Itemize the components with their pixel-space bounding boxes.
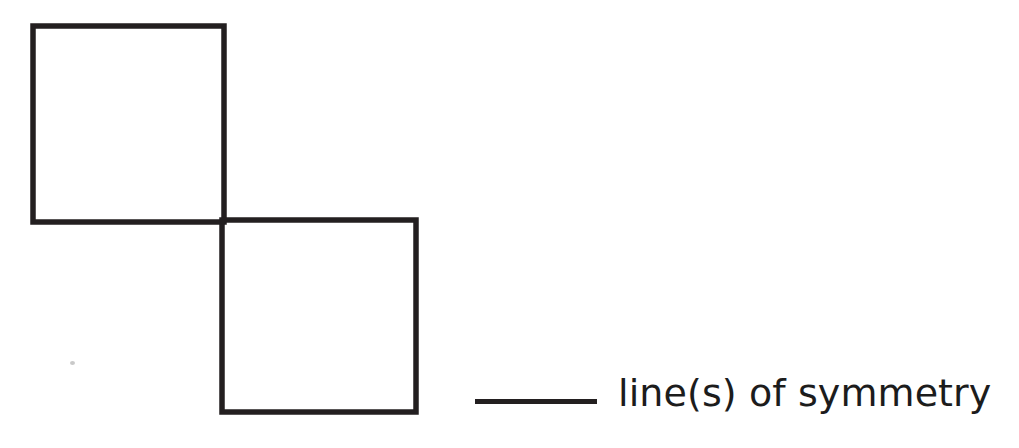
upper-left-square (33, 26, 224, 222)
worksheet-page: line(s) of symmetry (0, 0, 1019, 448)
lower-right-square (222, 220, 416, 412)
answer-row: line(s) of symmetry (475, 374, 991, 422)
symmetry-figure (0, 0, 460, 448)
scan-speck-artifact (70, 361, 75, 365)
two-squares-diagram (0, 0, 460, 448)
answer-blank-input[interactable] (475, 399, 597, 404)
answer-label: line(s) of symmetry (618, 374, 991, 412)
